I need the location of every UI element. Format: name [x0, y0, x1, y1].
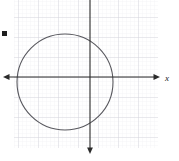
axis-labels-group: x	[164, 73, 169, 83]
grid-group	[14, 0, 158, 148]
coordinate-plane-graphic: x	[0, 0, 179, 161]
figure-root: x	[0, 0, 179, 161]
x-axis-label: x	[164, 73, 169, 83]
graph-paper-grid	[14, 0, 158, 148]
edge-marks-group	[2, 31, 7, 36]
cropped-y-label-mark	[2, 31, 7, 36]
